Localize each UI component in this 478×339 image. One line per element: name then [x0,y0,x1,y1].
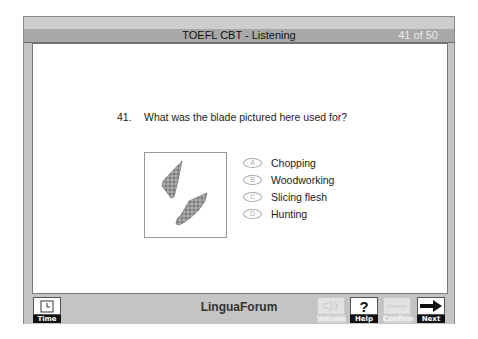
help-button[interactable]: ? Help [350,297,378,323]
radio-oval-d[interactable]: D [243,209,262,219]
option-b[interactable]: B Woodworking [243,171,334,188]
option-label: Slicing flesh [271,191,327,203]
title-bar: TOEFL CBT - Listening 41 of 50 [24,29,454,43]
option-label: Hunting [271,208,307,220]
radio-oval-a[interactable]: A [243,158,262,168]
answer-text-icon: Answer [383,297,411,315]
question-number: 41. [117,111,144,123]
question-panel: 41.What was the blade pictured here used… [32,43,448,294]
speaker-icon [317,297,345,315]
answer-options: A Chopping B Woodworking C Slicing flesh… [243,154,334,222]
option-c[interactable]: C Slicing flesh [243,188,334,205]
bottom-toolbar: Time LinguaForum Volume ? Help Answer Co… [24,294,454,324]
question-counter: 41 of 50 [398,29,438,42]
option-label: Woodworking [271,174,334,186]
question-mark-icon: ? [350,297,378,315]
option-a[interactable]: A Chopping [243,154,334,171]
volume-label: Volume [317,315,345,323]
radio-oval-c[interactable]: C [243,192,262,202]
next-label: Next [417,315,445,323]
volume-button[interactable]: Volume [317,297,345,323]
question-prompt: 41.What was the blade pictured here used… [117,111,347,123]
test-window: TOEFL CBT - Listening 41 of 50 41.What w… [23,16,455,324]
arrow-right-icon [417,297,445,315]
next-button[interactable]: Next [417,297,445,323]
radio-oval-b[interactable]: B [243,175,262,185]
confirm-answer-button[interactable]: Answer Confirm [383,297,411,323]
blade-picture [144,152,227,238]
section-title: TOEFL CBT - Listening [24,29,454,42]
question-text: What was the blade pictured here used fo… [144,111,347,123]
time-label: Time [33,315,61,323]
help-label: Help [350,315,378,323]
option-d[interactable]: D Hunting [243,205,334,222]
option-label: Chopping [271,157,316,169]
stone-blade-image-icon [145,153,226,237]
confirm-label: Confirm [383,315,411,323]
